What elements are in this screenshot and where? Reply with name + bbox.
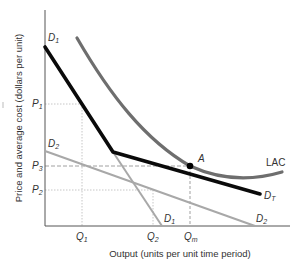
- y-axis-title: Price and average cost (dollars per unit…: [13, 34, 24, 202]
- q2-label: Q2: [147, 231, 159, 243]
- point-a-marker: [187, 163, 194, 170]
- p3-label: P3: [32, 160, 43, 172]
- lac-curve: [77, 38, 282, 178]
- dt-kinked-demand-line: [45, 47, 260, 194]
- q1-label: Q1: [76, 231, 88, 243]
- kinked-demand-lac-diagram: D1 D2 D1 D2 DT LAC A P1 P3 P2 Q1 Q2 Qm P…: [0, 0, 304, 267]
- curve-labels: D1 D2 D1 D2 DT LAC A: [48, 32, 285, 225]
- d1-bottom-label: D1: [164, 213, 175, 225]
- x-tick-labels: Q1 Q2 Qm: [76, 231, 198, 243]
- d2-left-label: D2: [48, 138, 59, 150]
- point-a-label: A: [197, 153, 205, 164]
- y-tick-labels: P1 P3 P2: [32, 98, 43, 196]
- p2-label: P2: [32, 184, 43, 196]
- p1-label: P1: [32, 98, 43, 110]
- guide-lines: [45, 104, 190, 226]
- lac-label: LAC: [266, 157, 285, 168]
- d2-right-label: D2: [256, 213, 267, 225]
- dt-label: DT: [264, 190, 276, 202]
- d1-top-label: D1: [48, 32, 59, 44]
- qm-label: Qm: [184, 231, 198, 243]
- x-axis-title: Output (units per unit time period): [109, 248, 251, 259]
